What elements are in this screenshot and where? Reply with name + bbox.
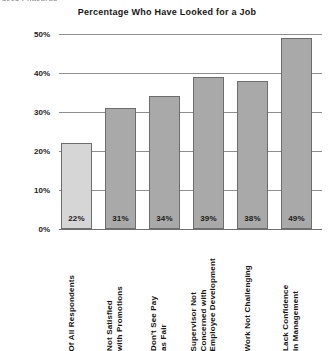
bar: 49% [281,38,312,229]
y-tick-label: 0% [38,225,50,234]
bar: 22% [61,143,92,229]
y-tick-label: 30% [34,108,50,117]
bar-value-label: 22% [68,214,85,223]
bar: 31% [105,108,136,229]
clipped-header-fragment: 1998 Phaedrus [2,0,58,3]
gridline-0 [59,229,322,230]
x-axis-category-label: Lack Confidence in Management [281,235,300,351]
y-tick-label: 50% [34,30,50,39]
bar: 34% [149,96,180,229]
bar-value-label: 39% [200,214,217,223]
y-tick-label: 20% [34,147,50,156]
y-tick-label: 40% [34,69,50,78]
bar-value-label: 34% [156,214,173,223]
bar-value-label: 31% [112,214,129,223]
bar: 38% [237,81,268,229]
bar-value-label: 49% [288,214,305,223]
x-axis-category-label: Of All Respondents [66,235,76,351]
x-axis-category-label: Supervisor Not Concerned with Employee D… [189,235,218,351]
bar: 39% [193,77,224,229]
x-axis-category-label: Don't See Pay as Fair [149,235,168,351]
x-axis: Of All RespondentsNot Satisfied with Pro… [59,233,322,351]
plot-area: 22%31%34%39%38%49% [59,34,322,229]
bar-value-label: 38% [244,214,261,223]
y-axis: 50%40%30%20%10%0% [0,34,54,229]
y-tick-label: 10% [34,186,50,195]
x-axis-category-label: Not Satisfied with Promotions [105,235,124,351]
chart-title: Percentage Who Have Looked for a Job [0,7,334,17]
x-axis-category-label: Work Not Challenging [242,235,252,351]
gridline-50 [59,34,322,35]
